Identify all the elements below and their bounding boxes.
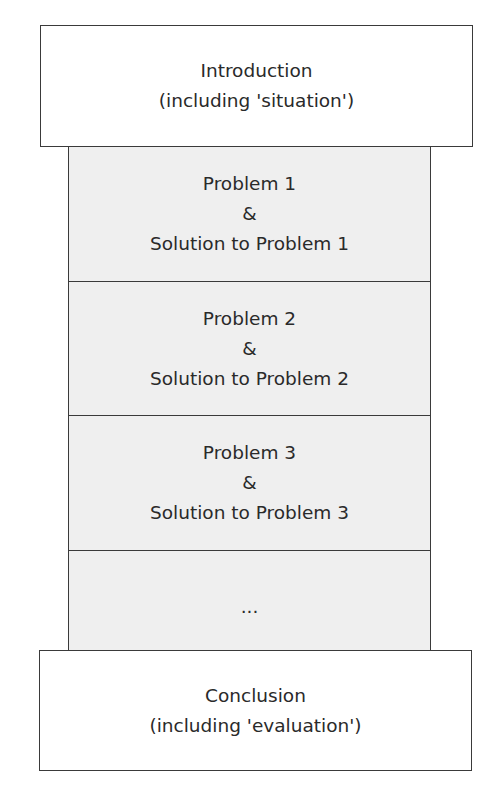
- section-problem-2: Problem 2 & Solution to Problem 2: [68, 281, 431, 416]
- section-problem-3: Problem 3 & Solution to Problem 3: [68, 415, 431, 551]
- solution-label: Solution to Problem 3: [150, 498, 349, 528]
- connector-label: &: [242, 334, 256, 364]
- solution-label: Solution to Problem 2: [150, 364, 349, 394]
- ellipsis-label: ...: [241, 592, 259, 622]
- connector-label: &: [242, 468, 256, 498]
- conclusion-subtitle: (including 'evaluation'): [149, 711, 361, 741]
- problem-label: Problem 3: [203, 438, 296, 468]
- introduction-subtitle: (including 'situation'): [159, 86, 354, 116]
- section-continuation: ...: [68, 550, 431, 651]
- section-problem-1: Problem 1 & Solution to Problem 1: [68, 146, 431, 282]
- solution-label: Solution to Problem 1: [150, 229, 349, 259]
- problem-label: Problem 1: [203, 169, 296, 199]
- problem-label: Problem 2: [203, 304, 296, 334]
- connector-label: &: [242, 199, 256, 229]
- conclusion-title: Conclusion: [205, 681, 306, 711]
- introduction-title: Introduction: [200, 56, 312, 86]
- conclusion-box: Conclusion (including 'evaluation'): [39, 650, 472, 771]
- introduction-box: Introduction (including 'situation'): [40, 25, 473, 147]
